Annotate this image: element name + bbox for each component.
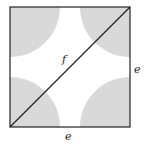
diagram-canvas: f e e [0,0,144,148]
label-bottom-e: e [65,130,72,143]
label-right-e: e [134,63,141,76]
quarter-circle-bottom-right [80,77,130,127]
label-diagonal-f: f [61,53,68,66]
quarter-circle-top-left [10,7,60,57]
